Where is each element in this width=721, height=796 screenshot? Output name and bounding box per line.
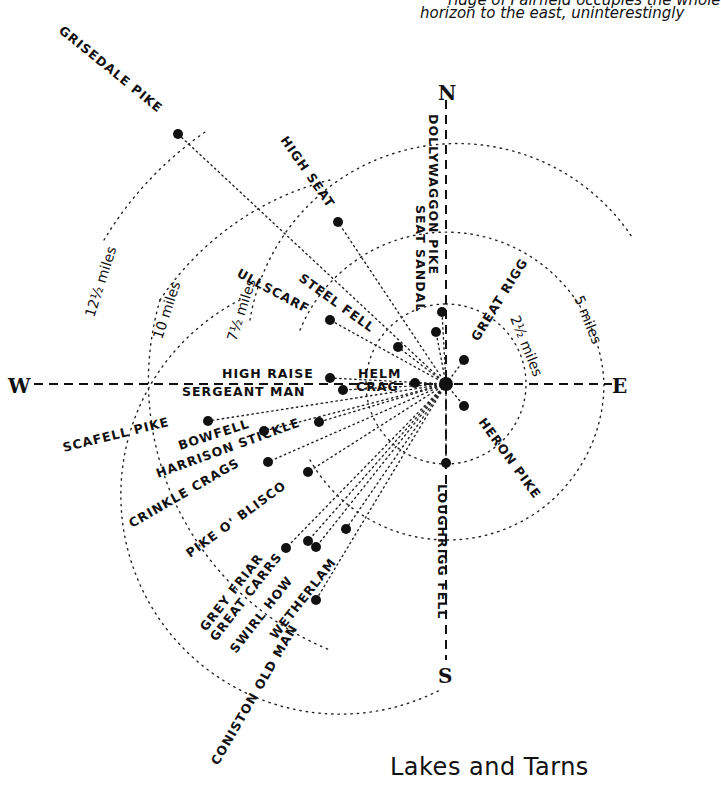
compass-w: W bbox=[7, 374, 31, 398]
summit-dot-high-seat bbox=[333, 217, 343, 227]
summit-dot-dollywaggon-pike bbox=[437, 307, 447, 317]
ring-label-5: 5 miles bbox=[571, 293, 605, 346]
label-high-seat: HIGH SEAT bbox=[278, 133, 338, 210]
summit-dot-sergeant-man bbox=[338, 385, 348, 395]
compass-e: E bbox=[612, 374, 627, 398]
summit-dot-wetherlam bbox=[341, 524, 351, 534]
label-high-raise: HIGH RAISE bbox=[222, 366, 314, 381]
sight-line-swirl-how bbox=[316, 384, 446, 547]
summit-dot-crinkle-crags bbox=[263, 457, 273, 467]
sight-line-pike-o-blisco bbox=[308, 384, 446, 472]
ring-label-10: 10 miles bbox=[150, 279, 184, 341]
summit-dot-great-rigg bbox=[459, 355, 469, 365]
label-heron-pike: HERON PIKE bbox=[476, 415, 545, 502]
ring-12-5-miles bbox=[104, 130, 208, 240]
ring-label-2-5: 2½ miles bbox=[507, 313, 546, 379]
label-seat-sandal: SEAT SANDAL bbox=[413, 205, 428, 312]
label-scafell-pike: SCAFELL PIKE bbox=[61, 414, 171, 455]
compass-n: N bbox=[438, 81, 456, 105]
label-loughrigg-fell: LOUGHRIGG FELL bbox=[435, 484, 450, 619]
ring-label-12-5: 12½ miles bbox=[82, 244, 120, 319]
summit-dot-loughrigg-fell bbox=[441, 458, 451, 468]
summit-dot-helm-crag bbox=[410, 378, 420, 388]
summit-dot-harrison-stickle bbox=[314, 417, 324, 427]
summit-dot-seat-sandal bbox=[431, 327, 441, 337]
sight-line-grey-friar bbox=[286, 384, 446, 548]
ring-5-miles bbox=[300, 232, 604, 510]
summit-dot-swirl-how bbox=[311, 542, 321, 552]
viewpoint-marker bbox=[439, 377, 453, 391]
label-sergeant-man: SERGEANT MAN bbox=[182, 384, 306, 399]
label-helm-crag-2: CRAG bbox=[356, 379, 399, 394]
summit-dot-high-raise bbox=[325, 373, 335, 383]
summit-dot-steel-fell bbox=[393, 342, 403, 352]
summit-dot-heron-pike bbox=[459, 401, 469, 411]
summit-dot-ullscarf bbox=[325, 315, 335, 325]
label-coniston-old-man: CONISTON OLD MAN bbox=[208, 622, 301, 768]
summit-labels: GRISEDALE PIKE HIGH SEAT DOLLYWAGGON PIK… bbox=[56, 23, 544, 768]
distance-rings bbox=[104, 130, 633, 714]
summit-dot-grey-friar bbox=[281, 543, 291, 553]
summit-dot-great-carrs bbox=[303, 536, 313, 546]
label-grisedale-pike: GRISEDALE PIKE bbox=[56, 23, 166, 116]
sight-line-steel-fell bbox=[398, 347, 446, 384]
sight-line-great-carrs bbox=[308, 384, 446, 541]
summit-dot-scafell-pike bbox=[203, 416, 213, 426]
section-title: Lakes and Tarns bbox=[390, 753, 589, 781]
summit-dot-pike-o-blisco bbox=[303, 467, 313, 477]
summit-dot-grisedale-pike bbox=[173, 129, 183, 139]
compass-s: S bbox=[438, 664, 452, 688]
